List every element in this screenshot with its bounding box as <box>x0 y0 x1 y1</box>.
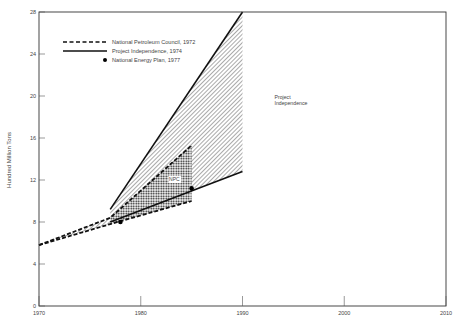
legend-label-0: National Petroleum Council, 1972 <box>112 39 195 45</box>
legend-label-1: Project Independence, 1974 <box>112 48 182 54</box>
y-tick-label-20: 20 <box>30 93 36 99</box>
x-tick-label-1980: 1980 <box>135 310 147 316</box>
region-label-npc: NPC <box>169 176 180 182</box>
legend-label-2: National Energy Plan, 1977 <box>112 57 180 63</box>
x-tick-label-2010: 2010 <box>440 310 452 316</box>
y-tick-label-4: 4 <box>33 261 36 267</box>
y-tick-label-24: 24 <box>30 51 36 57</box>
x-tick-label-2000: 2000 <box>338 310 350 316</box>
y-tick-label-12: 12 <box>30 177 36 183</box>
x-tick-label-1990: 1990 <box>236 310 248 316</box>
y-tick-label-8: 8 <box>33 219 36 225</box>
x-tick-label-1970: 1970 <box>33 310 45 316</box>
y-tick-label-16: 16 <box>30 135 36 141</box>
nep-point-0 <box>118 220 123 225</box>
y-tick-label-0: 0 <box>33 303 36 309</box>
legend-swatch-nep <box>103 58 107 62</box>
region-label-pi: ProjectIndependence <box>275 94 308 106</box>
y-tick-label-28: 28 <box>30 9 36 15</box>
chart: ProjectIndependenceNPC 04812162024281970… <box>0 0 463 328</box>
legend: National Petroleum Council, 1972Project … <box>63 39 195 63</box>
nep-point-1 <box>189 186 194 191</box>
y-axis-label: Hundred Million Tons <box>6 132 12 188</box>
